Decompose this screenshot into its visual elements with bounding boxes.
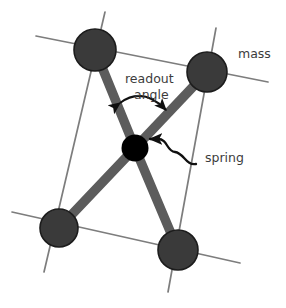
spring-center-node — [122, 135, 149, 162]
diagram-canvas: mass readout angle spring — [0, 0, 286, 308]
mass-bottom-right — [158, 230, 198, 270]
spring-pointer-arrow — [150, 139, 196, 164]
label-readout-angle-line1: readout — [125, 71, 174, 86]
mass-bottom-left — [40, 209, 78, 247]
mass-spring-diagram: mass readout angle spring — [0, 0, 286, 308]
label-spring: spring — [205, 150, 244, 165]
label-readout-angle-line2: angle — [134, 87, 169, 102]
mass-top-right — [187, 52, 227, 92]
mass-top-left — [74, 29, 116, 71]
label-mass: mass — [238, 46, 271, 61]
